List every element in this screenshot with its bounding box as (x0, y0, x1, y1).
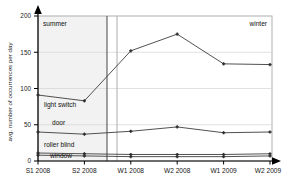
y-tick-label-100: 100 (20, 85, 31, 92)
x-tick-label-s2-2008: S2 2008 (72, 167, 97, 174)
x-tick-label-w2-2008: W2 2008 (164, 167, 191, 174)
annotation-winter: winter (248, 20, 267, 27)
annotation-summer: summer (43, 20, 68, 27)
y-axis-arrow-icon (34, 5, 42, 14)
x-tick-label-w1-2009: W1 2009 (210, 167, 237, 174)
series-label-window: window (49, 152, 72, 159)
series-label-light-switch: light switch (44, 101, 77, 109)
series-label-roller-blind: roller blind (44, 141, 75, 148)
line-chart: 0 50 100 150 200 avg. number of occurren… (0, 0, 283, 183)
y-tick-label-200: 200 (20, 12, 31, 19)
x-axis-arrow-icon (272, 157, 281, 165)
y-tick-label-50: 50 (24, 121, 32, 128)
y-axis-title: avg. number of occurrences per day (6, 42, 13, 142)
x-tick-label-w1-2008: W1 2008 (118, 167, 145, 174)
x-tick-label-w2-2009: W2 2009 (255, 167, 282, 174)
series-label-door: door (52, 119, 66, 126)
chart-container: 0 50 100 150 200 avg. number of occurren… (0, 0, 283, 183)
x-tick-label-s1-2008: S1 2008 (26, 167, 51, 174)
y-tick-label-0: 0 (27, 157, 31, 164)
y-tick-label-150: 150 (20, 49, 31, 56)
